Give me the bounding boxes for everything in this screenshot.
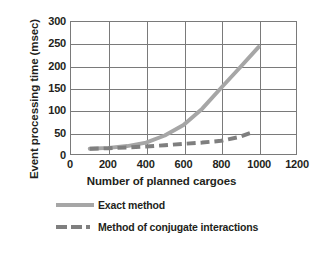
x-tick-label: 1200 (277, 158, 317, 170)
x-tick-label: 200 (88, 158, 128, 170)
y-tick-label: 100 (36, 105, 66, 115)
legend-label: Method of conjugate interactions (98, 221, 258, 233)
x-tick-label: 600 (164, 158, 204, 170)
legend-item-conjugate-method: Method of conjugate interactions (0, 216, 323, 238)
solid-line-swatch-icon (56, 199, 94, 211)
legend-label: Exact method (98, 199, 165, 211)
plot-area (70, 21, 297, 155)
y-tick-label: 300 (36, 16, 66, 26)
dashed-line-swatch-icon (56, 221, 94, 233)
x-axis-tick-labels: 0 200 400 600 800 1000 1200 (70, 158, 297, 172)
y-tick-label: 250 (36, 38, 66, 48)
y-tick-label: 200 (36, 61, 66, 71)
x-axis-title: Number of planned cargoes (0, 175, 323, 187)
x-tick-label: 800 (201, 158, 241, 170)
y-axis-tick-labels: 300 250 200 150 100 50 0 (36, 21, 66, 155)
chart-figure: Event processing time (msec) 300 250 200… (0, 0, 323, 253)
y-tick-label: 50 (36, 128, 66, 138)
x-tick-label: 400 (126, 158, 166, 170)
series-line-exact-method (90, 47, 259, 149)
x-tick-label: 0 (50, 158, 90, 170)
chart-legend: Exact method Method of conjugate interac… (0, 194, 323, 238)
legend-item-exact-method: Exact method (0, 194, 323, 216)
series-plot (71, 22, 296, 154)
y-tick-label: 150 (36, 83, 66, 93)
x-tick-label: 1000 (239, 158, 279, 170)
